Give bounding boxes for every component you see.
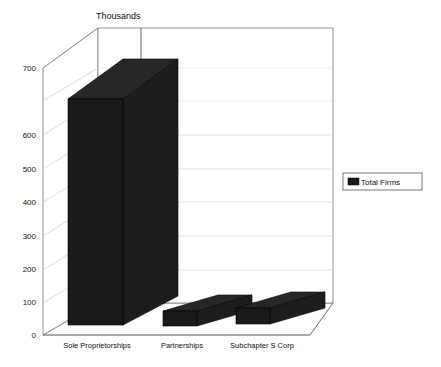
x-label-partnerships: Partnerships xyxy=(161,341,203,350)
y-tick-label-500: 500 xyxy=(23,165,37,174)
x-label-sole-proprietorships: Sole Proprietorships xyxy=(63,341,131,350)
bar-1-side-face xyxy=(123,59,178,325)
y-tick-label-700: 700 xyxy=(23,64,37,73)
bar-chart-svg: Thousands 0 100 200 300 400 500 600 700 xyxy=(0,0,441,367)
chart-legend[interactable]: Total Firms xyxy=(343,173,422,190)
chart-title: Thousands xyxy=(96,11,141,21)
bar-2-front-face xyxy=(163,311,197,326)
y-tick-label-0: 0 xyxy=(32,331,37,340)
y-tick-label-600: 600 xyxy=(23,131,37,140)
x-label-subchapter-s-corp: Subchapter S Corp xyxy=(230,341,294,350)
x-axis-category-labels: Sole Proprietorships Partnerships Subcha… xyxy=(63,341,294,350)
legend-label-total-firms: Total Firms xyxy=(361,178,400,187)
y-axis-tick-labels: 0 100 200 300 400 500 600 700 xyxy=(23,64,37,340)
y-tick-label-400: 400 xyxy=(23,198,37,207)
bar-3-front-face xyxy=(236,308,270,324)
y-tick-label-200: 200 xyxy=(23,265,37,274)
bar-sole-proprietorships[interactable] xyxy=(68,59,178,325)
legend-swatch-total-firms xyxy=(348,178,359,185)
bar-1-front-face xyxy=(68,99,123,325)
chart-container: Thousands 0 100 200 300 400 500 600 700 xyxy=(0,0,441,367)
y-tick-label-100: 100 xyxy=(23,298,37,307)
y-tick-label-300: 300 xyxy=(23,232,37,241)
